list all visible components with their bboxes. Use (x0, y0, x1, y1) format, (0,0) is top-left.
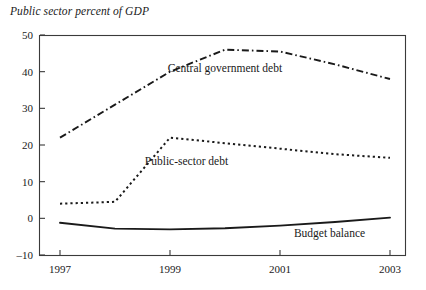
x-tick-label: 1999 (159, 263, 182, 275)
series-annotation-label: Central government debt (168, 62, 283, 75)
y-tick-label: 50 (22, 29, 34, 41)
chart-root: Public sector percent of GDP –1001020304… (0, 0, 426, 290)
series-annotation-label: Budget balance (294, 227, 365, 240)
annotation-group: Central government debtPublic-sector deb… (145, 62, 365, 241)
y-tick-label: –10 (16, 249, 34, 261)
series-annotation-label: Public-sector debt (145, 155, 229, 167)
x-tick-label: 2001 (269, 263, 291, 275)
y-tick-label: 0 (28, 212, 34, 224)
x-axis-tick-group: 1997199920012003 (49, 250, 402, 275)
series-line-public-sector-debt (60, 138, 390, 204)
y-tick-label: 10 (22, 176, 34, 188)
y-tick-label: 30 (22, 102, 34, 114)
x-tick-label: 2003 (379, 263, 402, 275)
y-tick-label: 40 (22, 66, 34, 78)
chart-plot-area: –1001020304050 1997199920012003 Central … (0, 0, 426, 290)
x-tick-label: 1997 (49, 263, 72, 275)
y-tick-label: 20 (22, 139, 34, 151)
series-group (60, 50, 390, 230)
y-axis-tick-group: –1001020304050 (16, 29, 46, 261)
